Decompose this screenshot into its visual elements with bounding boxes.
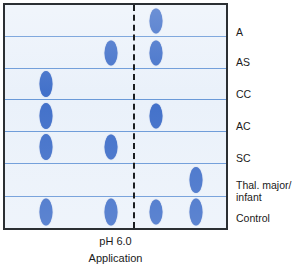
gel-lane <box>5 100 226 132</box>
lane-label-as: AS <box>236 57 303 69</box>
hemoglobin-band-spot <box>150 41 163 66</box>
lane-label-a: A <box>236 27 303 39</box>
application-origin-line <box>133 5 135 228</box>
hemoglobin-band-spot <box>39 134 52 160</box>
hemoglobin-band-spot <box>150 200 163 225</box>
hemoglobin-band-spot <box>104 199 117 226</box>
lane-label-control: Control <box>236 213 303 225</box>
hemoglobin-band-spot <box>39 71 52 97</box>
electrophoresis-figure: AASCCACSCThal. major/ infantControl pH 6… <box>0 0 303 273</box>
gel-lane <box>5 164 226 197</box>
lane-label-thal-major-infant: Thal. major/ infant <box>236 180 303 203</box>
gel-lane <box>5 37 226 69</box>
lane-label-ac: AC <box>236 121 303 133</box>
ph-label: pH 6.0 <box>3 234 228 249</box>
lane-labels: AASCCACSCThal. major/ infantControl <box>236 3 303 230</box>
lane-label-cc: CC <box>236 89 303 101</box>
hemoglobin-band-spot <box>150 8 163 33</box>
hemoglobin-band-spot <box>39 103 52 129</box>
application-label: Application <box>3 251 228 266</box>
gel-lane <box>5 5 226 37</box>
gel-lane <box>5 197 226 228</box>
gel-lane <box>5 69 226 101</box>
hemoglobin-band-spot <box>189 167 202 193</box>
hemoglobin-band-spot <box>150 103 163 128</box>
gel-lane <box>5 132 226 164</box>
gel-plate <box>3 3 228 230</box>
hemoglobin-band-spot <box>104 41 117 66</box>
hemoglobin-band-spot <box>189 199 202 226</box>
figure-caption: pH 6.0 Application <box>3 234 228 266</box>
hemoglobin-band-spot <box>104 135 117 160</box>
hemoglobin-band-spot <box>39 199 52 226</box>
lane-label-sc: SC <box>236 153 303 165</box>
